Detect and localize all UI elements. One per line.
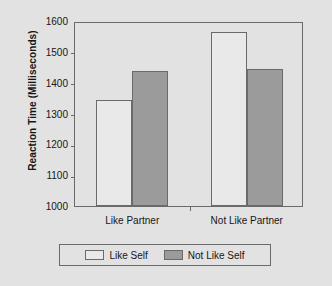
legend-swatch-icon: [164, 250, 183, 260]
bar: [132, 71, 168, 206]
y-tick-label: 1500: [46, 47, 68, 58]
legend-swatch-icon: [85, 250, 104, 260]
y-axis-title: Reaction Time (Milliseconds): [27, 6, 38, 196]
y-tick-mark: [71, 146, 75, 147]
legend-item: Like Self: [85, 250, 147, 261]
y-tick-label: 1300: [46, 109, 68, 120]
y-tick-mark: [71, 84, 75, 85]
legend-label: Like Self: [109, 250, 147, 261]
x-axis-tick: [190, 206, 191, 211]
plot-inner: 1000110012001300140015001600Like Partner…: [75, 23, 302, 206]
y-tick-label: 1000: [46, 201, 68, 212]
bar: [96, 100, 132, 206]
y-tick-mark: [71, 115, 75, 116]
y-tick-label: 1400: [46, 78, 68, 89]
x-axis-group-label: Not Like Partner: [211, 215, 283, 226]
legend-label: Not Like Self: [188, 250, 245, 261]
plot-area: 1000110012001300140015001600Like Partner…: [74, 22, 303, 207]
bar-chart: Reaction Time (Milliseconds) 10001100120…: [0, 0, 332, 286]
x-axis-group-label: Like Partner: [105, 215, 159, 226]
bar: [211, 32, 247, 206]
y-tick-label: 1200: [46, 139, 68, 150]
y-tick-mark: [71, 177, 75, 178]
y-tick-label: 1100: [46, 170, 68, 181]
y-tick-mark: [71, 53, 75, 54]
legend-item: Not Like Self: [164, 250, 245, 261]
y-tick-label: 1600: [46, 16, 68, 27]
bar: [247, 69, 283, 206]
legend: Like Self Not Like Self: [59, 244, 271, 266]
